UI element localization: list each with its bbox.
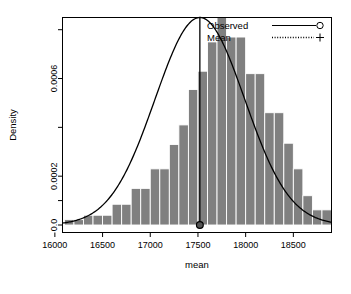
mean-circle-marker: [196, 222, 203, 229]
x-axis-tick-label: 18500: [281, 240, 306, 250]
x-axis-tick-label: 16000: [42, 240, 67, 250]
histogram-bar: [169, 144, 179, 225]
x-axis-label: mean: [185, 259, 209, 270]
histogram-bar: [141, 188, 151, 225]
histogram-bar: [236, 37, 246, 225]
x-axis-tick-label: 16500: [90, 240, 115, 250]
chart-root: 160001650017000175001800018500 0.00.0002…: [0, 0, 351, 294]
histogram-bar: [179, 125, 189, 225]
y-axis-tick-label: 0.0002: [49, 162, 59, 190]
histogram-bar: [246, 74, 256, 225]
histogram-bar: [103, 215, 113, 225]
histogram-bar: [93, 215, 103, 225]
histogram-bar: [160, 169, 170, 225]
x-axis-tick-label: 18000: [233, 240, 258, 250]
histogram-bar: [207, 42, 217, 225]
histogram-bar: [131, 188, 141, 225]
histogram-bar: [188, 90, 198, 225]
x-axis-tick-label: 17000: [138, 240, 163, 250]
histogram-bar: [322, 210, 332, 225]
y-axis-tick-label: 0.0: [49, 219, 59, 232]
legend-label-mean: Mean: [207, 32, 231, 43]
histogram-bar: [274, 113, 284, 225]
histogram-bar: [284, 143, 294, 225]
y-axis-label: Density: [7, 109, 18, 141]
x-axis-tick-label: 17500: [185, 240, 210, 250]
histogram-bar: [122, 204, 132, 225]
histogram-bar: [227, 37, 237, 225]
y-axis-tick-label: 0.0006: [49, 65, 59, 93]
legend-label-observed: Observed: [207, 20, 248, 31]
histogram-bar: [293, 169, 303, 225]
histogram-bar: [150, 169, 160, 225]
histogram-bar: [112, 204, 122, 225]
histogram-density-chart: 160001650017000175001800018500 0.00.0002…: [0, 0, 351, 294]
histogram-bar: [303, 196, 313, 225]
